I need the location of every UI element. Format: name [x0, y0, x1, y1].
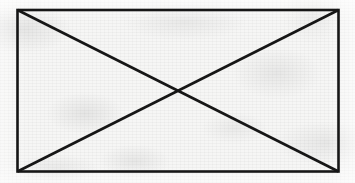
figure-canvas: [0, 0, 355, 183]
crossed-box-figure: [0, 0, 355, 183]
